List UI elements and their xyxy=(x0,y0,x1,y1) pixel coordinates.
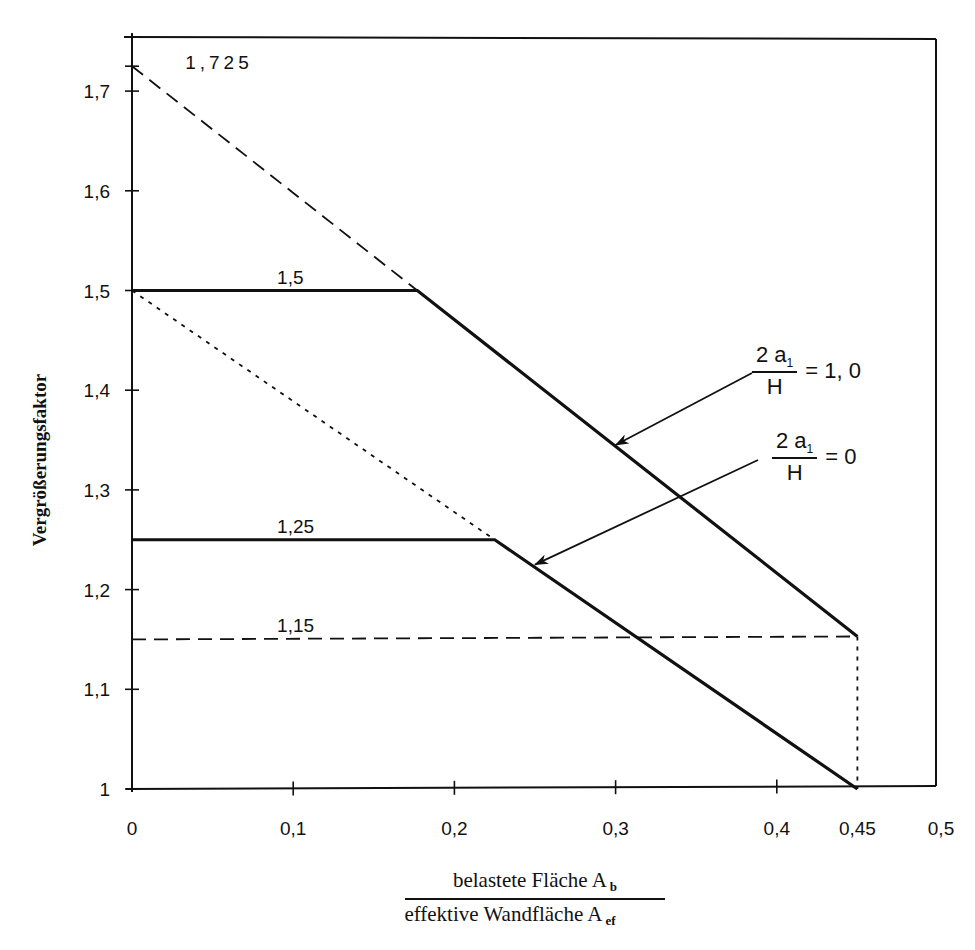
plot-frame xyxy=(124,33,936,792)
x-tick-label: 0,3 xyxy=(602,818,628,839)
x-label-num-text: belastete Fläche A xyxy=(453,868,607,892)
legend-fraction: 2 a1 H xyxy=(772,428,817,486)
y-tick-label: 1,2 xyxy=(84,580,110,601)
y-tick-label: 1,1 xyxy=(84,679,110,700)
x-tick-label: 0 xyxy=(127,818,138,839)
legend-subscript: 1 xyxy=(807,442,814,456)
legend-denominator: H xyxy=(752,373,797,400)
x-axis-label: belastete Fläche Ab effektive Wandfläche… xyxy=(395,868,645,929)
legend-value: = 1, 0 xyxy=(805,358,861,383)
legend-arrow-0 xyxy=(616,373,752,445)
legend-fraction: 2 a1 H xyxy=(752,342,797,400)
legend-item-ratio-0: 2 a1 H = 0 xyxy=(772,428,856,486)
annotations: 1,7251,51,251,15 xyxy=(185,52,314,636)
value-annotation: 1,25 xyxy=(277,516,314,537)
x-axis-label-denominator: effektive Wandfläche Aef xyxy=(355,900,665,929)
series-line-1 xyxy=(132,540,857,789)
x-tick-label: 0,1 xyxy=(280,818,306,839)
legend-subscript: 1 xyxy=(787,356,794,370)
legend-arrow-1 xyxy=(535,460,758,565)
series-line-4 xyxy=(132,636,857,639)
x-tick-label: 0,2 xyxy=(441,818,467,839)
x-tick-label: 0,5 xyxy=(928,818,954,839)
y-tick-label: 1,3 xyxy=(84,480,110,501)
x-label-den-sub: ef xyxy=(606,913,616,928)
legend-numerator: 2 a xyxy=(756,342,787,367)
value-annotation: 1,15 xyxy=(277,615,314,636)
x-axis-label-numerator: belastete Fläche Ab xyxy=(405,868,665,900)
y-axis-label: Vergrößerungsfaktor xyxy=(29,373,50,546)
series-line-2 xyxy=(132,66,417,290)
legend-denominator: H xyxy=(772,459,817,486)
y-tick-label: 1 xyxy=(99,779,110,800)
legend-item-ratio-1: 2 a1 H = 1, 0 xyxy=(752,342,861,400)
x-label-num-sub: b xyxy=(610,879,617,894)
value-annotation: 1,5 xyxy=(277,267,303,288)
frame-top xyxy=(124,37,936,39)
x-tick-label: 0,45 xyxy=(839,818,876,839)
legend-numerator: 2 a xyxy=(776,428,807,453)
y-tick-label: 1,6 xyxy=(84,181,110,202)
series-line-3 xyxy=(132,291,495,540)
x-tick-label: 0,4 xyxy=(764,818,791,839)
x-axis xyxy=(126,786,936,789)
legend-value: = 0 xyxy=(825,444,856,469)
x-label-den-text: effektive Wandfläche A xyxy=(404,902,602,926)
y-tick-label: 1,5 xyxy=(84,281,110,302)
data-series xyxy=(132,66,857,789)
y-tick-label: 1,4 xyxy=(84,380,111,401)
value-annotation: 1,725 xyxy=(185,52,253,73)
y-tick-label: 1,7 xyxy=(84,81,110,102)
